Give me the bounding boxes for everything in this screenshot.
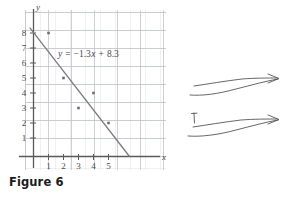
scatter-plot: y x 8 7 6 5 4 3 2 1 [0, 0, 180, 175]
x-tick-2: 2 [61, 161, 66, 171]
data-point [62, 77, 65, 80]
data-point [47, 32, 50, 35]
data-point [107, 122, 110, 125]
x-tick-1: 1 [46, 161, 51, 171]
figure-6-panel: y x 8 7 6 5 4 3 2 1 [0, 0, 180, 202]
y-tick-3: 3 [22, 103, 27, 113]
data-point [92, 92, 95, 95]
y-tick-8: 8 [22, 28, 27, 38]
handwritten-annotation-marks [180, 60, 289, 160]
grid-major [25, 10, 166, 170]
eq-x: x [90, 49, 96, 59]
eq-slope: −1.3 [74, 49, 91, 59]
figure-caption: Figure 6 [9, 175, 64, 189]
x-axis-label: x [161, 152, 166, 162]
hand-drawn-arrow-lower-icon [188, 113, 279, 136]
y-tick-7: 7 [22, 43, 27, 53]
eq-intercept: 8.3 [107, 49, 119, 59]
regression-line [30, 28, 130, 157]
eq-y: y [57, 49, 63, 59]
x-tick-3: 3 [76, 161, 81, 171]
hand-drawn-arrow-upper-icon [190, 74, 279, 95]
x-tick-5: 5 [106, 161, 111, 171]
eq-plus: + [99, 49, 104, 59]
x-tick-4: 4 [91, 161, 96, 171]
y-tick-labels: 8 7 6 5 4 3 2 1 [22, 28, 27, 143]
y-tick-4: 4 [22, 88, 27, 98]
y-tick-5: 5 [22, 73, 27, 83]
data-point [77, 107, 80, 110]
y-tick-6: 6 [22, 58, 27, 68]
grid-minor [25, 10, 166, 170]
y-tick-2: 2 [22, 118, 27, 128]
x-tick-labels: 1 2 3 4 5 [46, 161, 111, 171]
equation-annotation: y=−1.3x+8.3 [57, 49, 119, 59]
figure-screenshot: y x 8 7 6 5 4 3 2 1 [0, 0, 289, 202]
y-axis-label: y [35, 2, 40, 12]
eq-equals: = [65, 49, 70, 59]
axes [19, 9, 160, 168]
y-tick-1: 1 [22, 133, 27, 143]
